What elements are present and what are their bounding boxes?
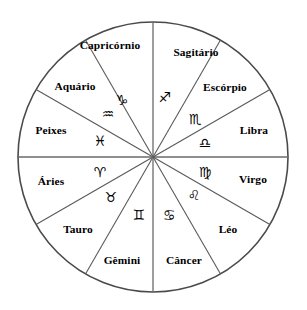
- sign-name-gemini: Gêmini: [104, 254, 141, 266]
- sign-name-cancer: Câncer: [166, 254, 202, 266]
- cancer-glyph: ♋: [163, 207, 176, 223]
- taurus-glyph: ♉: [105, 189, 118, 205]
- sign-name-leo: Léo: [219, 223, 238, 235]
- sign-name-aries: Áries: [38, 175, 65, 187]
- sign-name-tauro: Tauro: [63, 223, 93, 235]
- virgo-glyph: ♍: [199, 164, 212, 180]
- libra-glyph: ♎: [199, 135, 212, 151]
- sagittarius-glyph: ♐: [159, 89, 172, 105]
- sign-name-virgo: Virgo: [239, 173, 267, 185]
- gemini-glyph: ♊: [133, 207, 146, 223]
- sign-name-escorpio: Escórpio: [203, 81, 247, 93]
- sign-name-libra: Libra: [240, 124, 269, 136]
- sign-name-capricornio: Capricórnio: [80, 39, 141, 51]
- sign-name-peixes: Peixes: [36, 124, 67, 136]
- capricorn-glyph: ♑: [116, 92, 129, 108]
- zodiac-wheel-figure: Capricórnio♑Sagitário♐Escórpio♏Libra♎Vir…: [0, 0, 307, 310]
- pisces-glyph: ♓: [94, 133, 107, 149]
- aries-glyph: ♈: [94, 164, 107, 180]
- sign-name-aquario: Aquário: [54, 80, 95, 92]
- zodiac-wheel-svg: Capricórnio♑Sagitário♐Escórpio♏Libra♎Vir…: [0, 0, 307, 310]
- sign-name-sagitario: Sagitário: [173, 46, 218, 58]
- leo-glyph: ♌: [188, 187, 201, 203]
- aquarius-glyph: ♒: [102, 106, 115, 122]
- scorpio-glyph: ♏: [189, 111, 202, 127]
